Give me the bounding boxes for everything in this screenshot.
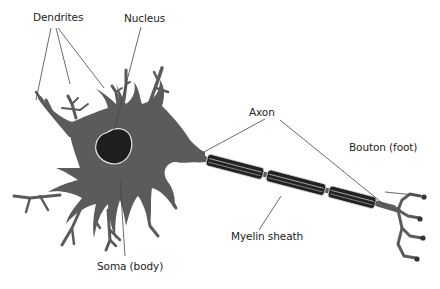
- myelin-sheath: [205, 154, 376, 209]
- bouton-knob: [421, 194, 426, 199]
- axon-terminal: [378, 194, 427, 262]
- label-soma: Soma (body): [97, 260, 163, 272]
- label-nucleus: Nucleus: [124, 12, 165, 24]
- label-bouton: Bouton (foot): [349, 141, 417, 153]
- label-dendrites: Dendrites: [33, 11, 83, 23]
- label-axon: Axon: [249, 106, 275, 118]
- label-myelin-sheath: Myelin sheath: [231, 230, 303, 242]
